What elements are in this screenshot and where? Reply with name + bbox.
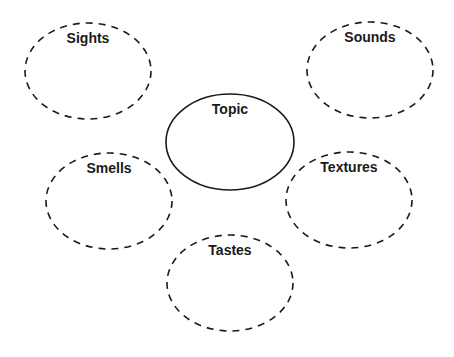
textures-label: Textures <box>320 160 377 174</box>
topic-label: Topic <box>212 102 248 116</box>
sensory-web-diagram: Topic Sights Sounds Smells Textures Tast… <box>0 0 454 357</box>
sights-label: Sights <box>67 31 110 45</box>
tastes-label: Tastes <box>208 243 251 257</box>
sounds-label: Sounds <box>344 30 395 44</box>
diagram-shapes <box>0 0 454 357</box>
smells-label: Smells <box>86 161 131 175</box>
